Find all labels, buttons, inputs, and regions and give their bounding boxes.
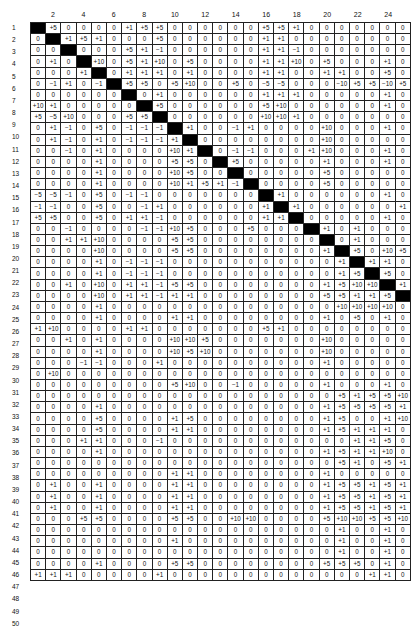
matrix-cell: 0	[152, 179, 167, 190]
matrix-cell: 0	[167, 569, 182, 580]
matrix-cell: 0	[198, 56, 213, 67]
matrix-cell: 0	[198, 234, 213, 245]
matrix-cell: 0	[243, 134, 258, 145]
matrix-cell: 0	[258, 268, 273, 279]
matrix-cell: 0	[213, 212, 228, 223]
column-label: 8	[137, 8, 152, 22]
matrix-cell: 0	[46, 469, 61, 480]
matrix-cell: 0	[319, 368, 334, 379]
matrix-cell: 0	[122, 558, 137, 569]
table-row: 0000+100+1+1−1+1+100000000+5+5+1+1+5	[31, 290, 411, 301]
matrix-cell: +1	[122, 279, 137, 290]
matrix-cell: +10	[167, 168, 182, 179]
matrix-cell: +1	[258, 56, 273, 67]
matrix-cell: 0	[182, 190, 197, 201]
matrix-cell: −5	[274, 78, 289, 89]
matrix-cell: 0	[213, 491, 228, 502]
matrix-cell: +1	[395, 279, 411, 290]
table-row: 00+10+100+1+1−1+5+500000000+1+5+10+10+1	[31, 279, 411, 290]
matrix-cell: 0	[46, 346, 61, 357]
table-row: 00+10+10000+10+10+50000000+1000000	[31, 335, 411, 346]
matrix-cell: 0	[243, 525, 258, 536]
row-label: 27	[10, 338, 30, 350]
matrix-cell: 0	[274, 424, 289, 435]
table-row: 0+1−10+50−1−1−1+100−1+10000+10000+10	[31, 123, 411, 134]
matrix-cell: 0	[319, 190, 334, 201]
diagonal-cell	[91, 67, 106, 78]
matrix-cell: +1	[319, 491, 334, 502]
matrix-cell: +10	[380, 301, 395, 312]
diagonal-cell	[289, 212, 304, 223]
matrix-cell: 0	[61, 313, 76, 324]
matrix-cell: 0	[274, 156, 289, 167]
matrix-cell: 0	[198, 569, 213, 580]
matrix-cell: +1	[258, 34, 273, 45]
matrix-cell: +1	[61, 279, 76, 290]
matrix-cell: 0	[76, 179, 91, 190]
matrix-cell: 0	[46, 179, 61, 190]
matrix-cell: 0	[228, 112, 243, 123]
matrix-cell: 0	[365, 458, 380, 469]
matrix-cell: 0	[243, 402, 258, 413]
matrix-cell: 0	[76, 201, 91, 212]
matrix-cell: 0	[61, 179, 76, 190]
matrix-cell: 0	[152, 346, 167, 357]
matrix-cell: 0	[198, 513, 213, 524]
matrix-cell: +1	[152, 357, 167, 368]
matrix-cell: 0	[182, 268, 197, 279]
table-row: 000+1+1000−1000000000000+1+1+50	[31, 435, 411, 446]
table-row: +50000+1+5+5000000+5+5+10000000	[31, 23, 411, 34]
matrix-cell: 0	[61, 446, 76, 457]
matrix-cell: 0	[213, 324, 228, 335]
matrix-cell: 0	[243, 101, 258, 112]
matrix-cell: 0	[106, 123, 121, 134]
matrix-cell: +1	[365, 502, 380, 513]
matrix-cell: 0	[31, 301, 46, 312]
matrix-cell: 0	[61, 357, 76, 368]
matrix-cell: 0	[137, 357, 152, 368]
matrix-cell: 0	[198, 190, 213, 201]
matrix-cell: 0	[122, 168, 137, 179]
matrix-cell: 0	[31, 34, 46, 45]
table-row: −5−5−10+50−1−10000000+1000000+10	[31, 190, 411, 201]
matrix-cell: 0	[106, 45, 121, 56]
table-row: 000+10+1+1+10+10000+1+100+1+100+50	[31, 67, 411, 78]
matrix-cell: 0	[258, 446, 273, 457]
matrix-cell: +1	[243, 123, 258, 134]
matrix-cell: 0	[319, 569, 334, 580]
matrix-cell: 0	[228, 223, 243, 234]
table-row: 000−1−1000+10000000000+100000	[31, 357, 411, 368]
matrix-cell: 0	[289, 413, 304, 424]
matrix-cell: 0	[106, 324, 121, 335]
matrix-cell: 0	[243, 279, 258, 290]
matrix-cell: 0	[122, 536, 137, 547]
matrix-cell: 0	[198, 536, 213, 547]
matrix-cell: +1	[258, 89, 273, 100]
matrix-cell: 0	[137, 313, 152, 324]
matrix-cell: +5	[167, 246, 182, 257]
matrix-cell: 0	[395, 346, 411, 357]
matrix-cell: 0	[349, 156, 364, 167]
matrix-cell: 0	[31, 234, 46, 245]
matrix-cell: 0	[106, 179, 121, 190]
table-row: 0000000+1000000+1+1+100000+10	[31, 89, 411, 100]
matrix-cell: 0	[274, 145, 289, 156]
matrix-cell: +1	[365, 290, 380, 301]
matrix-cell: 0	[31, 45, 46, 56]
matrix-cell: 0	[182, 89, 197, 100]
column-label: 16	[259, 8, 274, 22]
matrix-cell: 0	[76, 123, 91, 134]
matrix-cell: 0	[198, 101, 213, 112]
matrix-cell: 0	[213, 246, 228, 257]
matrix-cell: 0	[122, 346, 137, 357]
matrix-cell: 0	[228, 368, 243, 379]
matrix-cell: +1	[380, 413, 395, 424]
matrix-cell: 0	[61, 547, 76, 558]
matrix-cell: 0	[182, 212, 197, 223]
matrix-cell: 0	[380, 469, 395, 480]
matrix-cell: −5	[46, 190, 61, 201]
matrix-cell: +1	[91, 268, 106, 279]
matrix-cell: 0	[274, 391, 289, 402]
matrix-cell: 0	[304, 89, 319, 100]
matrix-cell: 0	[152, 335, 167, 346]
